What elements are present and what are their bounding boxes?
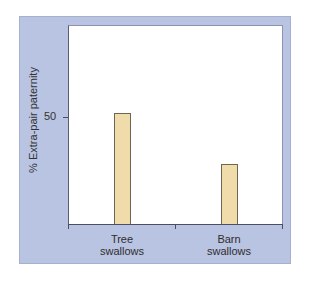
x-label-line2: swallows [82,245,162,257]
y-tick-label-50: 50 [44,111,56,122]
y-axis-label: % Extra-pair paternity [27,67,39,173]
x-tick-middle [175,224,176,229]
bar-barn-swallows [221,164,238,225]
x-label-line2: swallows [189,245,269,257]
x-label-line1: Barn [189,233,269,245]
x-tick-left [68,224,69,229]
x-label-barn-swallows: Barn swallows [189,233,269,257]
x-label-tree-swallows: Tree swallows [82,233,162,257]
plot-area [68,25,283,224]
x-tick-right [282,224,283,229]
bar-tree-swallows [114,113,131,225]
y-tick-50 [63,117,68,118]
x-label-line1: Tree [82,233,162,245]
